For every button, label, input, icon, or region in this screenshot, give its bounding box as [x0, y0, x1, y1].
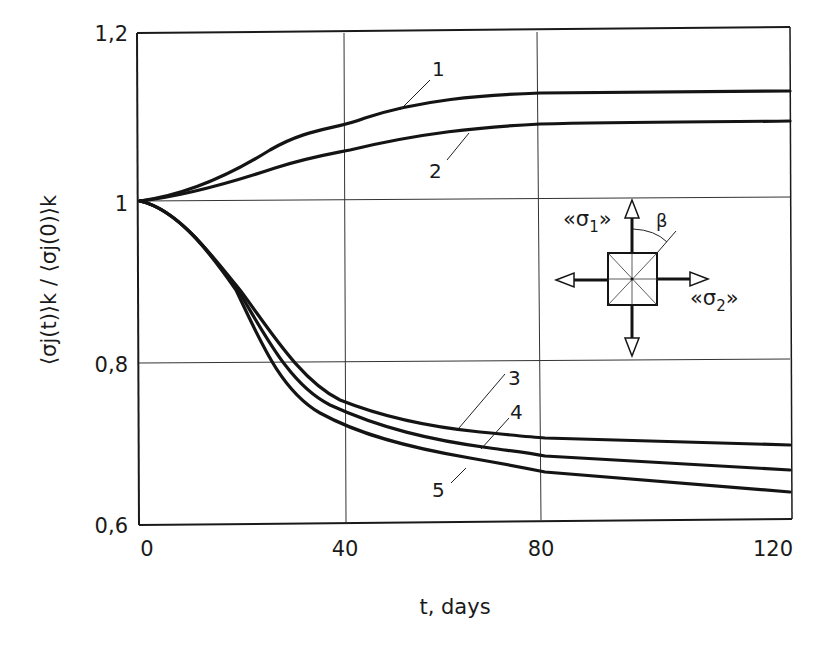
curve-3 — [140, 201, 790, 445]
arrow-down-icon — [625, 338, 639, 356]
x-axis-title-var: t — [419, 595, 427, 619]
curve-label-2: 2 — [429, 159, 442, 183]
sigma1-label: «σ1» — [563, 207, 612, 236]
y-tick-0.6: 0,6 — [95, 514, 128, 538]
x-tick-labels: 0 40 80 120 — [140, 537, 793, 561]
center-dot — [631, 278, 634, 281]
curve-label-4: 4 — [510, 400, 523, 424]
stress-ratio-chart: 1,2 1 0,8 0,6 0 40 80 120 t, days ⟨σj(t)… — [0, 0, 826, 646]
sigma2-sub: 2 — [716, 297, 726, 315]
leader-2 — [447, 133, 469, 160]
x-axis-title-unit: , days — [428, 595, 491, 619]
x-tick-0: 0 — [140, 537, 153, 561]
curve-label-5: 5 — [432, 478, 445, 502]
grid-y-0.8 — [139, 359, 790, 363]
x-axis — [139, 519, 792, 525]
arrow-up-icon — [625, 200, 639, 218]
frame-top — [137, 27, 790, 33]
sigma1-close: » — [599, 207, 612, 231]
sigma2-close: » — [726, 286, 739, 310]
y-tick-1.2: 1,2 — [95, 22, 128, 46]
x-tick-120: 120 — [753, 537, 793, 561]
arrow-left-icon — [556, 273, 574, 287]
y-tick-1: 1 — [115, 192, 128, 216]
y-axis — [137, 33, 139, 525]
grid-y-1 — [138, 197, 790, 201]
beta-label: β — [656, 210, 668, 231]
sigma2-text: «σ — [690, 286, 716, 310]
leader-5 — [451, 468, 466, 483]
curve-5 — [140, 201, 790, 492]
x-axis-title: t, days — [419, 595, 490, 619]
y-tick-0.8: 0,8 — [95, 353, 128, 377]
grid-x-80 — [537, 32, 541, 520]
grid-x-40 — [344, 33, 346, 522]
arrow-right-icon — [690, 272, 708, 286]
curve-2 — [140, 121, 790, 201]
y-tick-labels: 1,2 1 0,8 0,6 — [95, 22, 128, 538]
x-tick-40: 40 — [332, 537, 359, 561]
leader-3 — [459, 374, 505, 428]
curve-1 — [140, 91, 790, 201]
sigma2-label: «σ2» — [690, 286, 739, 315]
curve-label-1: 1 — [432, 57, 445, 81]
curve-label-3: 3 — [508, 366, 521, 390]
stress-inset: β «σ1» «σ2» — [556, 200, 739, 356]
y-axis-title: ⟨σj(t)⟩k / ⟨σj(0)⟩k — [37, 194, 61, 365]
x-tick-80: 80 — [528, 537, 555, 561]
sigma1-text: «σ — [563, 207, 589, 231]
sigma1-sub: 1 — [589, 218, 599, 236]
